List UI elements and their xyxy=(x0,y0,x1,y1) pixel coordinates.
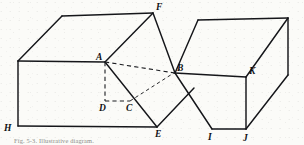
vertex-label-I: I xyxy=(207,132,212,142)
figure-caption: Fig. 5-3. Illustrative diagram. xyxy=(14,137,94,144)
edge-right-box-top-front xyxy=(175,73,246,77)
edge-hidden-c-to-b xyxy=(130,69,180,101)
vertex-label-B: B xyxy=(176,63,183,73)
vertex-label-D: D xyxy=(98,103,106,113)
edge-left-box-front-bottom xyxy=(18,126,157,127)
edge-right-box-top-back xyxy=(198,18,288,20)
vertex-label-J: J xyxy=(242,133,248,143)
edge-diamond-a-to-e xyxy=(105,62,157,127)
vertex-label-K: K xyxy=(248,66,256,76)
edge-right-box-b-to-i xyxy=(175,73,212,129)
edge-left-box-top-left-slant xyxy=(18,16,62,61)
vertex-label-group: A B C D E F H I J K xyxy=(3,2,256,143)
vertex-label-C: C xyxy=(126,103,133,113)
edge-diamond-f-to-b xyxy=(153,13,175,73)
figure-container: A B C D E F H I J K Fig. 5-3. Illustrati… xyxy=(0,0,304,145)
edge-left-box-top-back xyxy=(62,13,153,16)
vertex-label-A: A xyxy=(95,52,102,62)
geometry-figure: A B C D E F H I J K xyxy=(0,0,304,145)
solid-edge-group xyxy=(18,13,288,129)
vertex-label-F: F xyxy=(155,2,163,12)
edge-left-box-top-front xyxy=(18,61,105,62)
edge-right-box-right-slant-low xyxy=(246,75,288,129)
edge-hidden-a-to-b xyxy=(105,62,175,73)
vertex-label-H: H xyxy=(3,123,12,133)
dashed-edge-group xyxy=(105,62,180,101)
vertex-label-E: E xyxy=(154,129,161,139)
edge-diamond-a-to-f xyxy=(105,13,153,62)
